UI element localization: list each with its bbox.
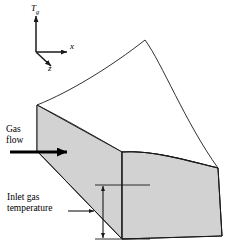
gas-flow-label-line2: flow — [6, 135, 23, 146]
axis-triad — [36, 16, 67, 66]
duct-solid — [37, 40, 222, 239]
gas-flow-label: Gas flow — [6, 124, 23, 145]
axis-label-tg: Tg — [31, 3, 39, 15]
figure-container: Tg x z Gas flow Inlet gas temperature — [0, 0, 234, 246]
axis-label-tg-subscript: g — [36, 8, 39, 15]
axis-label-z: z — [48, 63, 52, 73]
inlet-temperature-label-line1: Inlet gas — [7, 192, 52, 203]
gas-flow-label-line1: Gas — [6, 124, 23, 135]
inlet-temperature-label-line2: temperature — [7, 203, 52, 214]
inlet-temperature-label: Inlet gas temperature — [7, 192, 52, 213]
axis-label-x: x — [70, 41, 74, 51]
